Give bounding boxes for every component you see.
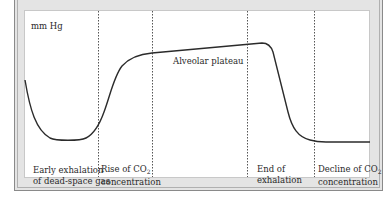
decline-line2: concentration <box>318 177 382 188</box>
phase-label-decline: Decline of CO2 concentration <box>318 164 382 188</box>
early-line2: of dead-space gas <box>33 176 110 187</box>
decline-sub: 2 <box>378 168 382 175</box>
rise-text: Rise of CO <box>101 164 147 174</box>
rise-line2: concentration <box>101 177 161 188</box>
alveolar-plateau-label: Alveolar plateau <box>173 56 244 67</box>
y-axis-unit: mm Hg <box>31 21 63 32</box>
rise-sub: 2 <box>147 168 151 175</box>
phase-label-early: Early exhalation of dead-space gas <box>33 165 110 187</box>
phase-label-rise: Rise of CO2 concentration <box>101 164 161 188</box>
phase-dividers <box>99 11 315 177</box>
rise-line1: Rise of CO2 <box>101 164 161 177</box>
end-line1: End of <box>257 164 302 175</box>
phase-label-end: End of exhalation <box>257 164 302 186</box>
decline-text: Decline of CO <box>318 164 378 174</box>
decline-line1: Decline of CO2 <box>318 164 382 177</box>
end-line2: exhalation <box>257 175 302 186</box>
early-line1: Early exhalation <box>33 165 110 176</box>
